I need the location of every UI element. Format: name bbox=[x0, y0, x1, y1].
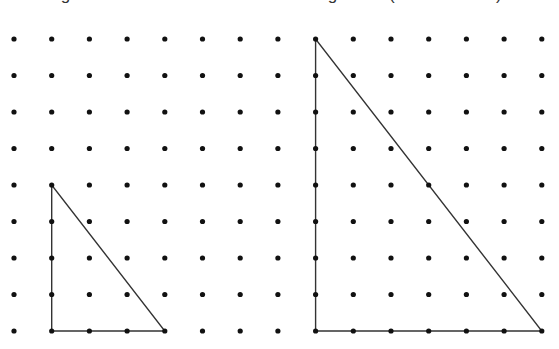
grid-dot bbox=[200, 146, 205, 151]
grid-dot bbox=[539, 255, 544, 260]
grid-dot bbox=[238, 146, 243, 151]
grid-dot bbox=[539, 328, 544, 333]
grid-dot bbox=[464, 73, 469, 78]
grid-dot bbox=[426, 36, 431, 41]
grid-dot bbox=[162, 219, 167, 224]
grid-dot bbox=[49, 109, 54, 114]
grid-dot bbox=[539, 36, 544, 41]
grid-dot bbox=[49, 292, 54, 297]
grid-dot bbox=[313, 255, 318, 260]
grid-dot bbox=[49, 36, 54, 41]
grid-dot bbox=[539, 292, 544, 297]
grid-dot bbox=[502, 292, 507, 297]
grid-dot bbox=[426, 219, 431, 224]
grid-dot bbox=[87, 36, 92, 41]
grid-dot bbox=[426, 73, 431, 78]
grid-dot bbox=[464, 36, 469, 41]
grid-dot bbox=[464, 328, 469, 333]
grid-dot bbox=[162, 73, 167, 78]
grid-dot bbox=[238, 255, 243, 260]
grid-dot bbox=[162, 328, 167, 333]
grid-dot bbox=[351, 182, 356, 187]
grid-dot bbox=[125, 109, 130, 114]
grid-dot bbox=[238, 182, 243, 187]
grid-dot bbox=[388, 73, 393, 78]
grid-dot bbox=[162, 146, 167, 151]
grid-dot bbox=[200, 109, 205, 114]
grid-dot bbox=[351, 109, 356, 114]
grid-dot bbox=[200, 73, 205, 78]
grid-dot bbox=[313, 73, 318, 78]
grid-dot bbox=[313, 146, 318, 151]
grid-dot bbox=[351, 36, 356, 41]
grid-dot bbox=[388, 328, 393, 333]
grid-dot bbox=[87, 219, 92, 224]
grid-dot bbox=[313, 109, 318, 114]
grid-dot bbox=[539, 73, 544, 78]
grid-dot bbox=[238, 219, 243, 224]
grid-dot bbox=[313, 219, 318, 224]
grid-dot bbox=[351, 73, 356, 78]
grid-dot bbox=[87, 292, 92, 297]
grid-dot bbox=[426, 328, 431, 333]
grid-dot bbox=[426, 182, 431, 187]
grid-dot bbox=[275, 219, 280, 224]
grid-dot bbox=[426, 255, 431, 260]
grid-dot bbox=[11, 292, 16, 297]
grid-dot bbox=[275, 36, 280, 41]
grid-dot bbox=[200, 292, 205, 297]
grid-dot bbox=[125, 73, 130, 78]
grid-dot bbox=[125, 146, 130, 151]
grid-dot bbox=[502, 328, 507, 333]
grid-dot bbox=[388, 219, 393, 224]
grid-dot bbox=[49, 219, 54, 224]
grid-dot bbox=[502, 146, 507, 151]
grid-dot bbox=[539, 219, 544, 224]
grid-dot bbox=[162, 109, 167, 114]
grid-dot bbox=[351, 255, 356, 260]
grid-dot bbox=[313, 182, 318, 187]
grid-dot bbox=[426, 292, 431, 297]
grid-dot bbox=[539, 146, 544, 151]
grid-dot bbox=[275, 73, 280, 78]
grid-dot bbox=[502, 182, 507, 187]
grid-dot bbox=[49, 255, 54, 260]
grid-dot bbox=[238, 73, 243, 78]
grid-dot bbox=[200, 255, 205, 260]
grid-dot bbox=[125, 36, 130, 41]
grid-dot bbox=[502, 255, 507, 260]
grid-dot bbox=[388, 146, 393, 151]
grid-dot bbox=[49, 146, 54, 151]
grid-dot bbox=[275, 255, 280, 260]
grid-dot bbox=[125, 219, 130, 224]
grid-dot bbox=[351, 328, 356, 333]
grid-dot bbox=[464, 219, 469, 224]
grid-dot bbox=[11, 73, 16, 78]
grid-dot bbox=[49, 328, 54, 333]
grid-dot bbox=[87, 328, 92, 333]
grid-dot bbox=[200, 219, 205, 224]
grid-dot bbox=[200, 36, 205, 41]
grid-dot bbox=[388, 255, 393, 260]
grid-dot bbox=[87, 109, 92, 114]
grid-dot bbox=[426, 109, 431, 114]
grid-dot bbox=[351, 146, 356, 151]
grid-dot bbox=[275, 109, 280, 114]
grid-dot bbox=[125, 182, 130, 187]
grid-dot bbox=[464, 255, 469, 260]
grid-dot bbox=[275, 328, 280, 333]
grid-dot bbox=[11, 219, 16, 224]
grid-dot bbox=[162, 255, 167, 260]
grid-dot bbox=[464, 292, 469, 297]
grid-dot bbox=[11, 328, 16, 333]
grid-dot bbox=[464, 109, 469, 114]
grid-dot bbox=[162, 182, 167, 187]
grid-dot bbox=[11, 109, 16, 114]
grid-dot bbox=[388, 182, 393, 187]
grid-dot bbox=[200, 328, 205, 333]
dot-grid bbox=[11, 36, 544, 333]
grid-dot bbox=[464, 146, 469, 151]
grid-dot bbox=[502, 219, 507, 224]
dot-grid-diagram bbox=[0, 0, 559, 349]
grid-dot bbox=[275, 292, 280, 297]
